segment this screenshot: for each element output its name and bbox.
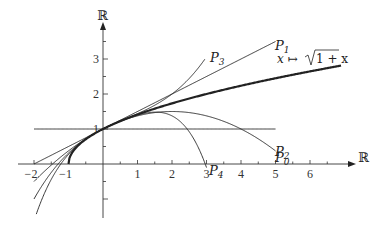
x-tick-label: 5	[273, 167, 279, 181]
y-tick-label: 3	[93, 52, 99, 66]
svg-text:1 + x: 1 + x	[316, 52, 348, 66]
x-axis-arrow-icon	[348, 161, 356, 167]
y-axis-arrow-icon	[100, 22, 106, 30]
x-tick-label: 4	[238, 167, 244, 181]
label-P2: P2	[274, 144, 290, 161]
taylor-diagram: ℝ ℝ −2−1123456123 P0 P1 P2 P3 P4 x ↦ 1 +…	[0, 0, 371, 233]
x-tick-label: 1	[135, 167, 141, 181]
curves	[34, 42, 341, 215]
y-tick-label: 2	[93, 87, 99, 101]
curve-P4	[36, 112, 206, 214]
x-tick-label: −2	[25, 167, 38, 181]
axes	[18, 28, 350, 218]
x-axis-label: ℝ	[358, 150, 370, 165]
x-tick-label: 6	[307, 167, 313, 181]
label-P4: P4	[208, 163, 224, 180]
y-axis-label: ℝ	[97, 8, 109, 23]
label-P3: P3	[209, 50, 225, 67]
x-tick-label: 2	[169, 167, 175, 181]
svg-text:x ↦: x ↦	[277, 52, 298, 66]
curve-P1	[34, 42, 276, 165]
label-sqrt-function: x ↦ 1 + x	[277, 50, 348, 66]
curve-sqrt	[69, 66, 342, 164]
x-tick-label: −1	[59, 167, 72, 181]
